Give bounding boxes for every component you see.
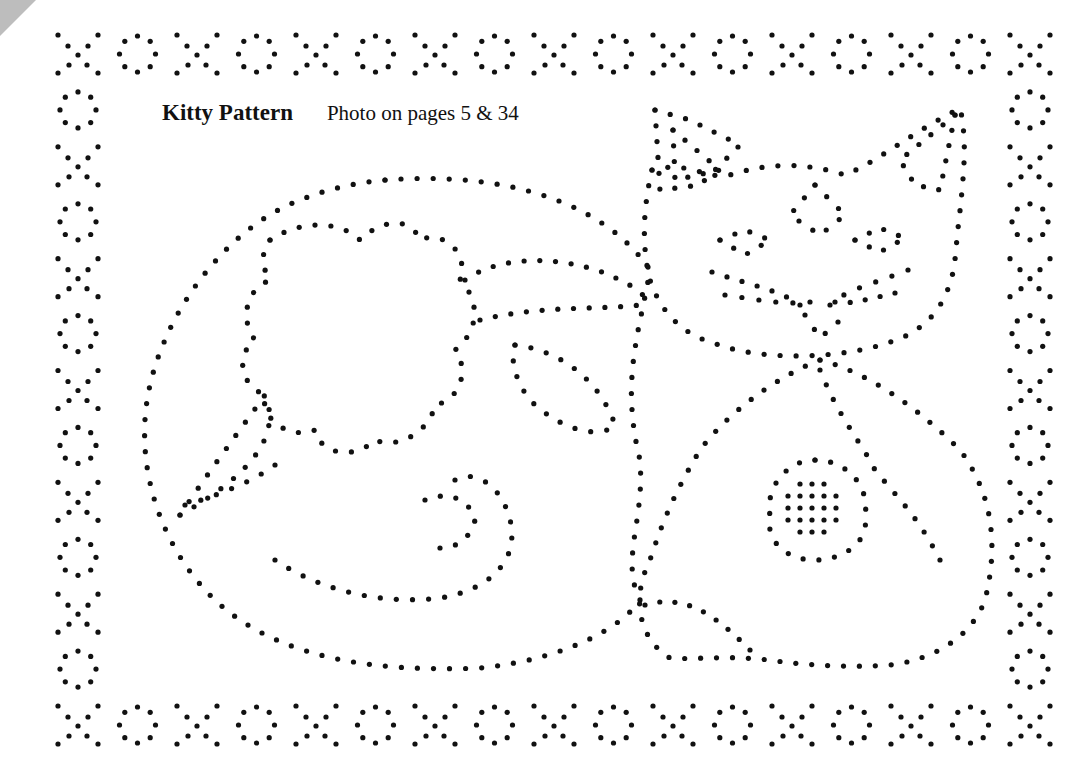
x-motif bbox=[174, 32, 219, 75]
o-motif bbox=[474, 33, 515, 74]
o-motif bbox=[57, 201, 98, 242]
cat-whiskers-right bbox=[827, 267, 910, 307]
cat-whiskers-left bbox=[709, 269, 802, 307]
x-motif bbox=[55, 480, 100, 523]
x-motif bbox=[650, 703, 695, 746]
x-motif bbox=[1007, 144, 1052, 187]
x-motif bbox=[1007, 480, 1052, 523]
o-motif bbox=[474, 704, 515, 745]
o-motif bbox=[1009, 201, 1050, 242]
o-motif bbox=[57, 89, 98, 130]
flower-leaf-right bbox=[511, 342, 616, 434]
o-motif bbox=[1009, 537, 1050, 578]
kitty-artwork bbox=[142, 107, 995, 671]
body-flower bbox=[767, 457, 868, 562]
x-motif bbox=[293, 32, 338, 75]
o-motif bbox=[57, 649, 98, 690]
cat-paw bbox=[642, 599, 752, 652]
cat-ear-left-inner bbox=[670, 127, 721, 179]
large-flower bbox=[240, 221, 477, 454]
o-motif bbox=[57, 537, 98, 578]
x-motif bbox=[1007, 703, 1052, 746]
o-motif bbox=[117, 704, 158, 745]
x-motif bbox=[531, 32, 576, 75]
o-motif bbox=[57, 425, 98, 466]
x-motif bbox=[1007, 256, 1052, 299]
x-motif bbox=[293, 703, 338, 746]
cat-head bbox=[642, 110, 967, 359]
o-motif bbox=[1009, 313, 1050, 354]
x-motif bbox=[531, 703, 576, 746]
pattern-page: Kitty Pattern Photo on pages 5 & 34 bbox=[0, 0, 1091, 774]
cat-ear-right-inner bbox=[901, 112, 958, 192]
cat-body bbox=[637, 357, 995, 668]
o-motif bbox=[355, 33, 396, 74]
x-motif bbox=[1007, 368, 1052, 411]
o-motif bbox=[950, 704, 991, 745]
cat-tail bbox=[272, 474, 514, 602]
o-motif bbox=[831, 33, 872, 74]
x-motif bbox=[769, 703, 814, 746]
cat-nose bbox=[791, 182, 842, 232]
pin-prick-pattern bbox=[0, 0, 1091, 774]
x-motif bbox=[1007, 32, 1052, 75]
x-motif bbox=[55, 703, 100, 746]
o-motif bbox=[117, 33, 158, 74]
x-motif bbox=[55, 32, 100, 75]
cat-body-inner-line bbox=[817, 367, 942, 562]
x-motif bbox=[1007, 592, 1052, 635]
body-flower-center bbox=[785, 481, 838, 534]
decorative-border bbox=[55, 32, 1052, 746]
o-motif bbox=[712, 33, 753, 74]
x-motif bbox=[174, 703, 219, 746]
o-motif bbox=[236, 33, 277, 74]
o-motif bbox=[831, 704, 872, 745]
x-motif bbox=[55, 368, 100, 411]
flower-leaf-left-2 bbox=[182, 462, 277, 507]
o-motif bbox=[57, 313, 98, 354]
o-motif bbox=[593, 33, 634, 74]
x-motif bbox=[888, 32, 933, 75]
cat-mouth bbox=[802, 312, 840, 336]
o-motif bbox=[1009, 89, 1050, 130]
cat-eye-left bbox=[717, 229, 767, 256]
flower-leaf-left bbox=[177, 393, 271, 517]
cat-whiskers-right-2 bbox=[832, 290, 897, 305]
cat-tail-tip bbox=[422, 494, 477, 551]
x-motif bbox=[650, 32, 695, 75]
o-motif bbox=[1009, 425, 1050, 466]
o-motif bbox=[712, 704, 753, 745]
x-motif bbox=[55, 592, 100, 635]
x-motif bbox=[412, 703, 457, 746]
o-motif bbox=[236, 704, 277, 745]
x-motif bbox=[55, 256, 100, 299]
x-motif bbox=[412, 32, 457, 75]
o-motif bbox=[355, 704, 396, 745]
cat-eye-right bbox=[852, 227, 901, 253]
o-motif bbox=[950, 33, 991, 74]
x-motif bbox=[769, 32, 814, 75]
o-motif bbox=[593, 704, 634, 745]
x-motif bbox=[888, 703, 933, 746]
flower-stem bbox=[462, 258, 645, 323]
x-motif bbox=[55, 144, 100, 187]
o-motif bbox=[1009, 649, 1050, 690]
